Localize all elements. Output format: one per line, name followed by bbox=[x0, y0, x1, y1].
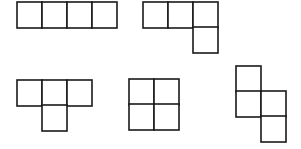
tetromino-cell bbox=[17, 80, 42, 106]
tetromino-cell bbox=[261, 91, 286, 117]
tetromino-cell bbox=[193, 27, 218, 53]
tetromino-cell bbox=[42, 105, 67, 131]
tetromino-cell bbox=[236, 66, 261, 92]
tetromino-cell bbox=[17, 2, 42, 28]
tetromino-cell bbox=[42, 2, 67, 28]
tetromino-cell bbox=[193, 2, 218, 28]
tetromino-cell bbox=[261, 116, 286, 142]
tetromino-cell bbox=[129, 104, 154, 130]
tetromino-cell bbox=[154, 79, 179, 105]
t-tetromino-shape bbox=[17, 80, 92, 131]
tetromino-cell bbox=[154, 104, 179, 130]
tetromino-diagram bbox=[0, 0, 301, 149]
i-tetromino-shape bbox=[17, 2, 117, 28]
tetromino-cell bbox=[42, 80, 67, 106]
tetromino-cell bbox=[67, 80, 92, 106]
o-tetromino-shape bbox=[129, 79, 179, 130]
tetromino-cell bbox=[92, 2, 117, 28]
tetromino-cell bbox=[143, 2, 168, 28]
tetromino-cell bbox=[67, 2, 92, 28]
l-tetromino-shape bbox=[143, 2, 218, 53]
tetromino-cell bbox=[168, 2, 193, 28]
tetromino-cell bbox=[236, 91, 261, 117]
tetromino-cell bbox=[129, 79, 154, 105]
s-tetromino-shape bbox=[236, 66, 286, 142]
